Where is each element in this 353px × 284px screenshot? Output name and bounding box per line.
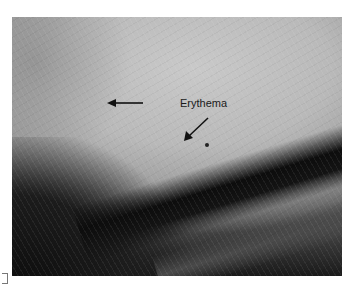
annotation-arrows [0,0,353,284]
caption-marker [2,273,8,284]
erythema-label: Erythema [180,97,227,109]
left-arrow-icon [107,99,143,107]
erythema-arrow-icon [184,118,208,141]
